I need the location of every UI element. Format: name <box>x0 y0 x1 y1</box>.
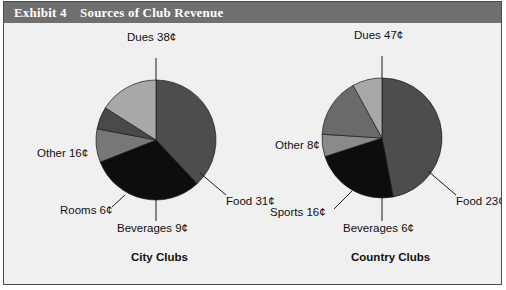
label-city-beverages: Beverages 9¢ <box>117 222 188 235</box>
leader-line-country-sports <box>334 191 352 209</box>
chart-title-country-clubs: Country Clubs <box>351 251 430 263</box>
label-city-other: Other 16¢ <box>37 147 88 160</box>
country-clubs-pie <box>322 78 442 198</box>
exhibit-number-label: Exhibit 4 <box>14 5 67 21</box>
label-city-food: Food 31¢ <box>226 195 275 208</box>
label-country-beverages: Beverages 6¢ <box>343 222 414 235</box>
label-country-dues: Dues 47¢ <box>354 29 403 42</box>
label-city-rooms: Rooms 6¢ <box>60 204 112 217</box>
leader-line-city-food <box>200 173 226 195</box>
country-clubs-slice-dues <box>382 78 442 197</box>
city-clubs-pie <box>96 80 216 200</box>
label-country-food: Food 23¢ <box>456 195 502 208</box>
chart-title-city-clubs: City Clubs <box>131 251 188 263</box>
label-country-sports: Sports 16¢ <box>270 206 326 219</box>
exhibit-header-bar: Exhibit 4 Sources of Club Revenue <box>4 2 502 23</box>
charts-container: Dues 38¢ Food 31¢ Beverages 9¢ Rooms 6¢ … <box>4 23 502 285</box>
exhibit-figure: Exhibit 4 Sources of Club Revenue Dues 3… <box>0 0 506 290</box>
label-country-other: Other 8¢ <box>275 139 320 152</box>
leader-line-country-food <box>428 171 456 195</box>
leader-line-city-rooms <box>112 195 125 207</box>
exhibit-title-label: Sources of Club Revenue <box>80 5 223 21</box>
label-city-dues: Dues 38¢ <box>127 31 176 44</box>
figure-panel: Exhibit 4 Sources of Club Revenue Dues 3… <box>3 1 502 285</box>
